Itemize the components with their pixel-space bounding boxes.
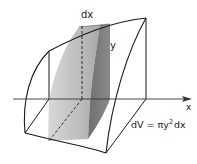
y-label: y <box>110 40 116 51</box>
formula-exponent: 2 <box>169 118 173 126</box>
x-axis-label: x <box>186 102 192 112</box>
volume-formula: dV = πy2dx <box>131 118 186 130</box>
solid-left-curve <box>24 51 49 133</box>
formula-rhs: dx <box>174 119 186 130</box>
base-left-diagonal <box>25 99 49 133</box>
disk-method-diagram: dx y x dV = πy2dx <box>0 0 197 164</box>
dx-label: dx <box>81 9 93 20</box>
formula-lhs: dV = πy <box>131 119 169 130</box>
solid-right-curve <box>106 18 146 153</box>
